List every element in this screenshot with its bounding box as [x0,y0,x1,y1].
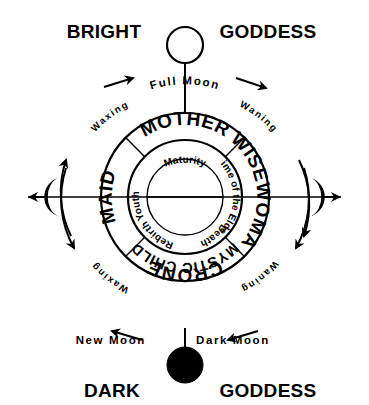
archetype-mother: MOTHER [136,108,233,141]
waning-upper-label: Waning [238,98,280,134]
dark-moon-label: Dark Moon [196,334,270,346]
goddess-label-bottom: GODDESS [219,380,316,401]
dark-label: DARK [84,380,140,401]
dark-goddess-header: DARK GODDESS [84,380,317,401]
waning-lower-label: Waning [239,259,281,296]
waxing-lower-label: Waxing [88,260,130,296]
stage-maturity: Maturity [162,154,208,169]
archetype-labels: MOTHER WISEWOMAN CRONE MYSTIC CHILD MAID [0,0,275,286]
divider-nw [126,138,145,157]
waxing-upper-label: Waxing [89,98,131,133]
goddess-wheel-diagram: BRIGHT GODDESS Full Moon Waxing Waning [0,0,369,405]
bottom-moon-annotation: New Moon Dark Moon [76,331,270,346]
bright-label: BRIGHT [67,21,142,42]
full-moon-icon [167,27,203,113]
new-moon-label: New Moon [76,334,146,346]
goddess-label-top: GODDESS [219,21,316,42]
